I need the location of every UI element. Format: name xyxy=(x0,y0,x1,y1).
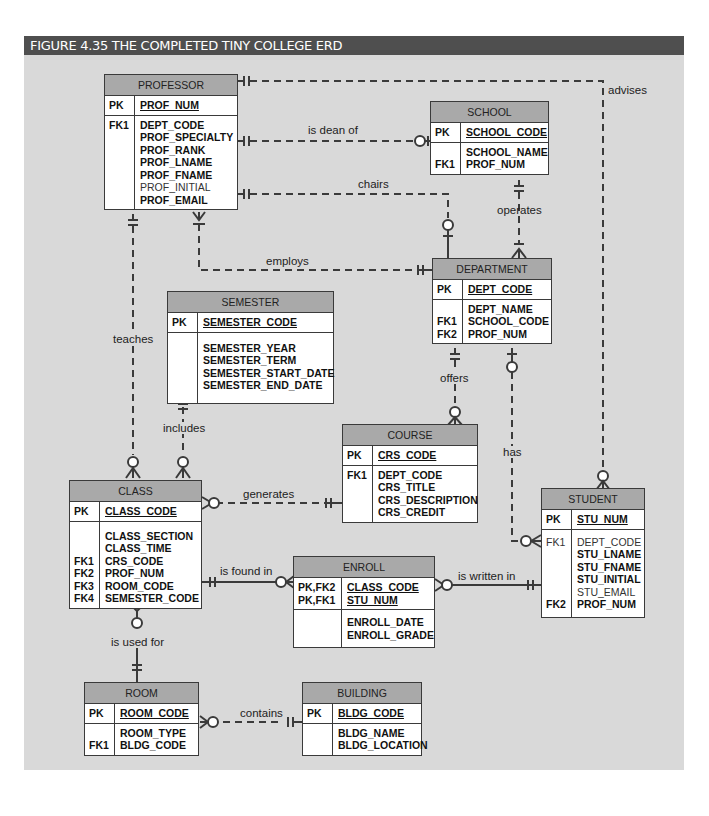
key-label: FK1 xyxy=(435,158,460,171)
entity-department-name: DEPARTMENT xyxy=(433,259,551,280)
key-label: PK xyxy=(109,99,134,112)
attribute: PROF_NUM xyxy=(577,598,644,611)
key-label xyxy=(109,144,134,157)
attribute: ROOM_TYPE xyxy=(120,727,198,740)
entity-class-name: CLASS xyxy=(70,481,201,502)
rel-label-has: has xyxy=(503,446,522,458)
entity-school[interactable]: SCHOOL PK SCHOOL_CODE FK1 SCHOOL_NAME PR… xyxy=(430,101,549,175)
entity-class[interactable]: CLASS PK CLASS_CODE FK1 FK2 FK3 FK4 CLAS… xyxy=(69,480,202,609)
entity-professor-name: PROFESSOR xyxy=(105,75,237,96)
entity-student-name: STUDENT xyxy=(542,489,644,510)
key-label: FK1 xyxy=(437,315,462,328)
rel-label-includes: includes xyxy=(163,422,205,434)
key-label xyxy=(546,561,571,574)
rel-label-operates: operates xyxy=(497,204,542,216)
pk-attribute: CLASS_CODE xyxy=(105,505,201,518)
attribute: PROF_NUM xyxy=(468,328,551,341)
key-label: PK xyxy=(546,513,571,526)
attribute: PROF_RANK xyxy=(140,144,237,157)
key-label: FK1 xyxy=(109,119,134,132)
pk-attribute: ROOM_CODE xyxy=(120,707,198,720)
key-label xyxy=(347,494,372,507)
rel-label-is-used-for: is used for xyxy=(111,636,164,648)
key-label: FK2 xyxy=(74,567,99,580)
key-label xyxy=(109,181,134,194)
entity-semester-name: SEMESTER xyxy=(168,292,333,313)
attribute: STU_FNAME xyxy=(577,561,644,574)
key-label: FK1 xyxy=(347,469,372,482)
rel-label-chairs: chairs xyxy=(358,178,389,190)
rel-label-is-dean-of: is dean of xyxy=(308,124,358,136)
attribute: CLASS_SECTION xyxy=(105,530,201,543)
pk-attribute: PROF_NUM xyxy=(140,99,237,112)
key-label: PK xyxy=(89,707,114,720)
attribute: PROF_NUM xyxy=(105,567,201,580)
key-label xyxy=(89,727,114,740)
attribute: CLASS_TIME xyxy=(105,542,201,555)
attribute: SEMESTER_START_DATE xyxy=(203,367,334,380)
key-label: FK3 xyxy=(74,580,99,593)
pk-attribute: DEPT_CODE xyxy=(468,283,551,296)
key-label xyxy=(546,573,571,586)
key-label xyxy=(546,586,571,599)
key-label xyxy=(435,146,460,159)
pk-attribute: CRS_CODE xyxy=(378,449,477,462)
attribute: PROF_FNAME xyxy=(140,169,237,182)
key-label xyxy=(347,481,372,494)
entity-building[interactable]: BUILDING PK BLDG_CODE BLDG_NAME BLDG_LOC… xyxy=(302,682,422,756)
key-label xyxy=(74,530,99,543)
attribute: SCHOOL_NAME xyxy=(466,146,548,159)
entity-professor[interactable]: PROFESSOR PK PROF_NUM FK1 DEPT_CODE PROF… xyxy=(104,74,238,210)
attribute: PROF_SPECIALTY xyxy=(140,131,237,144)
key-label xyxy=(437,303,462,316)
pk-attribute: SCHOOL_CODE xyxy=(466,126,548,139)
entity-student[interactable]: STUDENT PK STU_NUM FK1 FK2 DEPT_CODE STU… xyxy=(541,488,645,618)
attribute: CRS_CREDIT xyxy=(378,506,478,519)
entity-room[interactable]: ROOM PK ROOM_CODE FK1 ROOM_TYPE BLDG_COD… xyxy=(84,682,199,756)
attribute: PROF_LNAME xyxy=(140,156,237,169)
pk-attribute: BLDG_CODE xyxy=(338,707,421,720)
key-label: FK1 xyxy=(74,555,99,568)
rel-label-is-found-in: is found in xyxy=(220,565,272,577)
attribute: SCHOOL_CODE xyxy=(468,315,551,328)
key-label xyxy=(109,194,134,207)
attribute: CRS_DESCRIPTION xyxy=(378,494,478,507)
key-label: PK xyxy=(437,283,462,296)
attribute: DEPT_NAME xyxy=(468,303,551,316)
key-label: PK,FK2 xyxy=(298,581,341,594)
attribute: STU_EMAIL xyxy=(577,586,644,599)
attribute: STU_INITIAL xyxy=(577,573,644,586)
pk-attribute: STU_NUM xyxy=(577,513,644,526)
entity-school-name: SCHOOL xyxy=(431,102,548,123)
entity-enroll[interactable]: ENROLL PK,FK2 PK,FK1 CLASS_CODE STU_NUM … xyxy=(293,556,435,648)
rel-label-is-written-in: is written in xyxy=(458,570,516,582)
rel-label-employs: employs xyxy=(266,255,309,267)
rel-label-generates: generates xyxy=(243,488,294,500)
key-label: PK xyxy=(74,505,99,518)
key-label: FK4 xyxy=(74,592,99,605)
entity-semester[interactable]: SEMESTER PK SEMESTER_CODE SEMESTER_YEAR … xyxy=(167,291,334,404)
attribute: CRS_TITLE xyxy=(378,481,478,494)
key-label xyxy=(109,131,134,144)
entity-course[interactable]: COURSE PK CRS_CODE FK1 DEPT_CODE CRS_TIT… xyxy=(342,424,478,523)
key-label xyxy=(74,542,99,555)
pk-attribute: STU_NUM xyxy=(347,594,434,607)
key-label xyxy=(109,156,134,169)
entity-department[interactable]: DEPARTMENT PK DEPT_CODE FK1 FK2 DEPT_NAM… xyxy=(432,258,552,344)
rel-label-offers: offers xyxy=(440,372,469,384)
attribute: SEMESTER_END_DATE xyxy=(203,379,334,392)
attribute: DEPT_CODE xyxy=(140,119,237,132)
attribute: CRS_CODE xyxy=(105,555,201,568)
key-label: PK xyxy=(172,316,197,329)
rel-label-teaches: teaches xyxy=(113,333,153,345)
attribute: ENROLL_GRADE xyxy=(347,629,434,642)
key-label xyxy=(546,548,571,561)
entity-course-name: COURSE xyxy=(343,425,477,446)
key-label xyxy=(347,506,372,519)
attribute: DEPT_CODE xyxy=(378,469,478,482)
attribute: PROF_EMAIL xyxy=(140,194,237,207)
attribute: DEPT_CODE xyxy=(577,536,644,549)
attribute: PROF_INITIAL xyxy=(140,181,237,194)
rel-label-contains: contains xyxy=(240,707,283,719)
key-label: FK2 xyxy=(546,598,571,611)
